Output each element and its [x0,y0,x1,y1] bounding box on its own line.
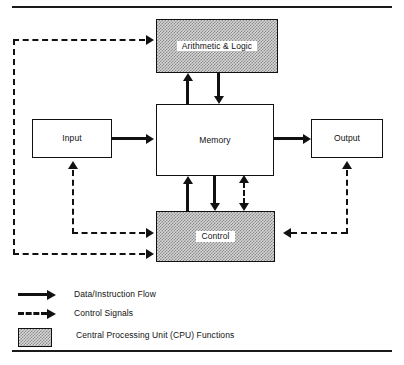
block-arithmetic-logic: Arithmetic & Logic [156,19,278,73]
control-to-output-arrowhead-left [283,228,291,238]
flow-memory-to-output-line [274,137,303,140]
block-label-memory: Memory [199,136,230,145]
legend-label-cpu-functions: Central Processing Unit (CPU) Functions [76,330,234,340]
control-to-alu-bottom-arrowhead [146,249,154,259]
block-label-arithmetic-logic: Arithmetic & Logic [177,41,257,52]
flow-memory-to-control-line [213,176,216,203]
legend-label-control-signals: Control Signals [74,308,133,318]
flow-control-to-memory-line [186,184,189,211]
block-label-output: Output [334,134,360,143]
dashed-arrow-icon [18,306,64,320]
block-input: Input [32,119,112,158]
block-memory: Memory [156,104,274,176]
flow-memory-to-alu-arrowhead [183,73,193,81]
control-to-alu-bottom-run [13,253,145,255]
control-to-input-riser [72,170,74,234]
block-output: Output [311,119,383,158]
block-label-control: Control [196,231,234,242]
flow-alu-to-memory-line [217,73,220,96]
flow-control-to-memory-arrowhead [183,176,193,184]
top-rule [12,6,392,8]
block-control: Control [156,211,275,262]
stipple-swatch-icon [18,328,64,342]
control-to-input-arrowhead-up [68,161,78,169]
flow-memory-to-alu-line [186,81,189,104]
legend: Data/Instruction Flow Control Signals Ce… [18,286,234,349]
control-to-input-horizontal-run [72,232,145,234]
control-to-alu-arrowhead [146,35,154,45]
cpu-block-diagram: Arithmetic & Logic Memory Input Output C… [0,0,404,365]
control-to-alu-left-riser [13,39,15,255]
solid-arrow-icon [18,287,64,301]
legend-item-data-flow: Data/Instruction Flow [18,286,234,302]
flow-input-to-memory-line [112,137,146,140]
control-memory-bidirectional-arrowhead-up [239,175,249,183]
legend-item-cpu-functions: Central Processing Unit (CPU) Functions [18,324,234,346]
flow-memory-to-output-arrowhead [303,134,311,144]
control-to-output-horizontal-run [291,232,347,234]
control-memory-bidirectional-arrowhead-down [239,203,249,211]
control-to-input-arrowhead-right [146,228,154,238]
flow-memory-to-control-arrowhead [210,203,220,211]
control-to-output-arrowhead-up [342,161,352,169]
control-memory-bidirectional-line [243,182,245,204]
control-to-alu-top-run [13,39,145,41]
block-label-input: Input [62,134,81,143]
legend-label-data-flow: Data/Instruction Flow [74,289,156,299]
legend-item-control-signals: Control Signals [18,305,234,321]
bottom-rule [12,350,392,352]
flow-alu-to-memory-arrowhead [214,96,224,104]
control-to-output-riser [346,170,348,234]
flow-input-to-memory-arrowhead [146,134,154,144]
